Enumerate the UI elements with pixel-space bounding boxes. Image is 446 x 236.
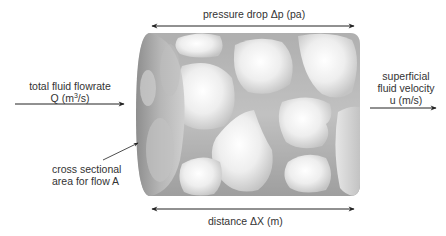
particle xyxy=(279,97,332,148)
cross-section-label-line1: cross sectional xyxy=(52,163,132,175)
cross-section-pointer-arrow xyxy=(103,143,138,160)
particle xyxy=(284,155,331,193)
particle xyxy=(179,157,222,195)
particle xyxy=(175,33,222,57)
cross-section-label-line2: area for flow A xyxy=(52,175,132,187)
pressure-drop-label: pressure drop Δp (pa) xyxy=(203,8,305,20)
velocity-label-line2: fluid velocity xyxy=(370,82,442,94)
distance-label: distance ΔX (m) xyxy=(208,215,283,227)
packed-bed-cylinder xyxy=(136,33,362,196)
flowrate-unit-prefix: Q (m xyxy=(51,92,74,104)
packed-bed-diagram xyxy=(0,0,446,236)
velocity-label-line3: u (m/s) xyxy=(370,94,442,106)
particle xyxy=(176,63,234,130)
velocity-label-line1: superficial xyxy=(370,70,442,82)
flowrate-unit-suffix: /s) xyxy=(78,92,90,104)
flowrate-label-line1: total fluid flowrate xyxy=(20,80,120,92)
particle xyxy=(234,39,293,94)
particle xyxy=(335,107,362,197)
flowrate-label-line2: Q (m3/s) xyxy=(20,92,120,104)
velocity-label: superficial fluid velocity u (m/s) xyxy=(370,70,442,106)
cross-section-label: cross sectional area for flow A xyxy=(52,163,132,187)
flowrate-label: total fluid flowrate Q (m3/s) xyxy=(20,80,120,104)
